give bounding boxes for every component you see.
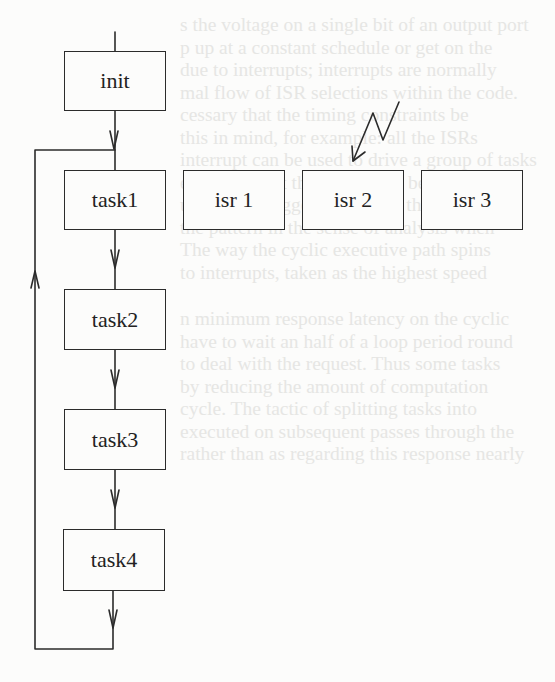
node-init: init: [64, 51, 166, 111]
node-label: task3: [92, 427, 138, 453]
node-task4: task4: [63, 529, 165, 591]
node-label: isr 1: [215, 187, 254, 213]
node-task2: task2: [64, 289, 166, 350]
node-label: task1: [92, 187, 138, 213]
node-label: task4: [91, 547, 137, 573]
node-label: task2: [92, 307, 138, 333]
node-label: isr 3: [453, 187, 492, 213]
node-task3: task3: [64, 409, 166, 470]
node-isr3: isr 3: [421, 170, 523, 230]
node-isr2: isr 2: [302, 170, 404, 230]
node-task1: task1: [64, 170, 166, 230]
lightning-bolt-icon: [353, 102, 399, 161]
node-isr1: isr 1: [183, 170, 285, 230]
arrowhead-icon: [110, 131, 118, 149]
node-label: isr 2: [334, 187, 373, 213]
node-label: init: [100, 68, 129, 94]
